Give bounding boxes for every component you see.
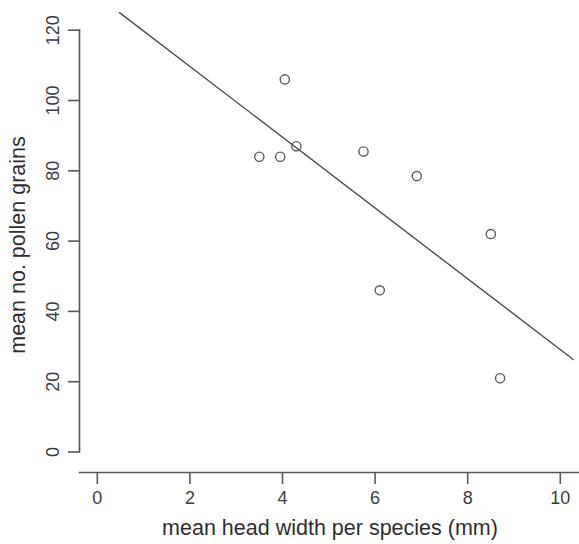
data-point bbox=[276, 152, 285, 161]
y-axis-title: mean no. pollen grains bbox=[6, 136, 30, 354]
y-tick-label-120: 120 bbox=[43, 15, 63, 45]
y-axis-tick-labels: 0 20 40 60 80 100 120 bbox=[43, 15, 63, 457]
plot-canvas: 0 20 40 60 80 100 120 0 2 4 6 8 10 mean bbox=[0, 0, 579, 544]
x-tick-label-6: 6 bbox=[370, 488, 380, 508]
x-axis-ticks bbox=[97, 473, 560, 485]
x-tick-label-0: 0 bbox=[92, 488, 102, 508]
data-point bbox=[412, 171, 421, 180]
x-tick-label-4: 4 bbox=[277, 488, 287, 508]
y-tick-label-60: 60 bbox=[43, 231, 63, 251]
data-point bbox=[496, 374, 505, 383]
y-tick-label-40: 40 bbox=[43, 301, 63, 321]
data-point bbox=[280, 75, 289, 84]
y-tick-label-20: 20 bbox=[43, 372, 63, 392]
x-tick-label-2: 2 bbox=[185, 488, 195, 508]
data-points-group bbox=[255, 75, 505, 383]
y-tick-label-100: 100 bbox=[43, 85, 63, 115]
data-point bbox=[375, 286, 384, 295]
y-tick-label-80: 80 bbox=[43, 161, 63, 181]
y-tick-label-0: 0 bbox=[43, 447, 63, 457]
scatter-plot-figure: 0 20 40 60 80 100 120 0 2 4 6 8 10 mean bbox=[0, 0, 579, 544]
y-axis-ticks bbox=[68, 30, 80, 452]
data-point bbox=[486, 229, 495, 238]
x-tick-label-10: 10 bbox=[550, 488, 570, 508]
data-point bbox=[359, 147, 368, 156]
x-axis-tick-labels: 0 2 4 6 8 10 bbox=[92, 488, 570, 508]
x-tick-label-8: 8 bbox=[463, 488, 473, 508]
data-point bbox=[255, 152, 264, 161]
x-axis-title: mean head width per species (mm) bbox=[162, 516, 498, 540]
regression-line bbox=[120, 13, 574, 360]
